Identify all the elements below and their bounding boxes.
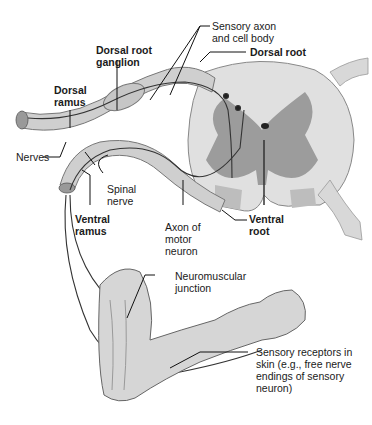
label-dorsal-ramus: Dorsalramus [54, 84, 87, 108]
label-sensory-receptors: Sensory receptors inskin (e.g., free ner… [256, 346, 352, 394]
label-ventral-root: Ventralroot [249, 213, 284, 237]
label-dorsal-root-ganglion: Dorsal rootganglion [96, 44, 152, 68]
dorsal-nerve [16, 67, 215, 130]
label-sensory-axon: Sensory axonand cell body [212, 20, 276, 44]
label-axon-motor-neuron: Axon ofmotorneuron [165, 221, 201, 257]
label-ventral-ramus: Ventralramus [75, 213, 110, 237]
label-nerves: Nerves [16, 151, 49, 163]
label-dorsal-root: Dorsal root [250, 46, 306, 58]
label-spinal-nerve: Spinalnerve [107, 183, 136, 207]
label-neuromuscular-junction: Neuromuscularjunction [175, 270, 246, 294]
